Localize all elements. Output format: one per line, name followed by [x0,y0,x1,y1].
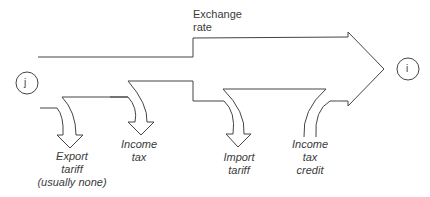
income-tax-credit-label: Income tax credit [285,138,335,177]
export-tariff-line1: Export [34,150,110,163]
main-arrow-top-edge [38,32,384,69]
income-tax-credit-line2: tax [285,151,335,164]
exchange-rate-line2: rate [193,21,242,34]
import-tariff-label: Import tariff [214,151,264,177]
target-node-label: i [406,62,408,75]
income-tax-line1: Income [114,138,164,151]
income-tax-credit-line1: Income [285,138,335,151]
export-tariff-label: Export tariff (usually none) [34,150,110,189]
income-tax-line2: tax [114,151,164,164]
export-tariff-line2: tariff [34,163,110,176]
import-tariff-line2: tariff [214,164,264,177]
source-node-j [16,72,38,94]
income-tax-credit-arrow [304,89,330,137]
income-tax-label: Income tax [114,138,164,164]
import-tariff-line1: Import [214,151,264,164]
source-node-label: j [24,76,26,89]
export-tariff-line3: (usually none) [34,176,110,189]
income-tax-arrow [110,81,224,135]
exchange-rate-line1: Exchange [193,8,242,21]
income-tax-credit-line3: credit [285,164,335,177]
main-arrow-bottom-edge [330,69,384,106]
exchange-rate-label: Exchange rate [193,8,242,34]
